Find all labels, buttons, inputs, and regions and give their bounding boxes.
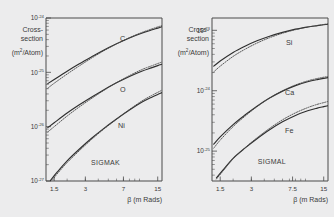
x-tick-label: 3: [250, 185, 254, 192]
x-tick-label: 3: [84, 185, 88, 192]
curve-label-Si: Si: [286, 38, 293, 47]
panel-sigmak: 10-2410-2510-2610-271.53715CONiSIGMAKβ (…: [12, 14, 162, 204]
x-tick-label: 15: [320, 185, 327, 192]
curve-Ni-dotted: [53, 90, 162, 180]
panel-title-sigmak: SIGMAK: [91, 159, 120, 166]
x-tick-label: 1.5: [50, 185, 59, 192]
curve-Ni: [50, 93, 162, 181]
y-axis-label-line2: section: [21, 35, 43, 42]
curve-label-C: C: [120, 34, 125, 43]
y-axis-label-line1: Cross-: [188, 26, 209, 33]
curve-label-Ca: Ca: [285, 88, 294, 97]
curve-label-O: O: [120, 85, 126, 94]
y-tick-label: 10-26: [31, 122, 45, 130]
plot-frame: [212, 18, 328, 181]
x-tick-label: 7.5: [288, 185, 297, 192]
x-axis-label: β (m Rads): [293, 196, 328, 204]
curve-Si: [214, 24, 328, 66]
x-axis-label: β (m Rads): [127, 196, 162, 204]
curve-label-Ni: Ni: [118, 121, 125, 130]
cross-section-figure: 10-2410-2510-2610-271.53715CONiSIGMAKβ (…: [0, 0, 334, 217]
x-tick-label: 1.5: [216, 185, 225, 192]
curve-Si-dotted: [214, 24, 328, 72]
curve-O: [48, 64, 162, 127]
y-tick-label: 10-27: [31, 177, 45, 185]
curve-C-dotted: [48, 26, 162, 89]
curve-Fe-dotted: [216, 101, 328, 179]
panel-sigmal: 10-2310-2410-251.537.515SiCaFeSIGMALβ (m…: [178, 18, 328, 204]
y-axis-label-line2: section: [187, 35, 209, 42]
y-axis-label-line1: Cross-: [22, 26, 43, 33]
y-tick-label: 10-25: [31, 68, 45, 76]
curve-label-Fe: Fe: [285, 126, 293, 135]
curve-Fe: [216, 106, 328, 178]
curve-C: [48, 27, 162, 84]
panel-title-sigmal: SIGMAL: [258, 158, 286, 165]
y-axis-label-line3: (m2/Atom): [12, 48, 43, 57]
y-tick-label: 10-25: [197, 147, 211, 155]
x-tick-label: 7: [122, 185, 126, 192]
x-tick-label: 15: [154, 185, 161, 192]
curve-Ca-dotted: [214, 76, 328, 148]
y-tick-label: 10-24: [31, 14, 45, 22]
y-axis-label-line3: (m2/Atom): [178, 48, 209, 57]
y-tick-label: 10-24: [197, 86, 211, 94]
curve-Ca: [214, 78, 328, 145]
